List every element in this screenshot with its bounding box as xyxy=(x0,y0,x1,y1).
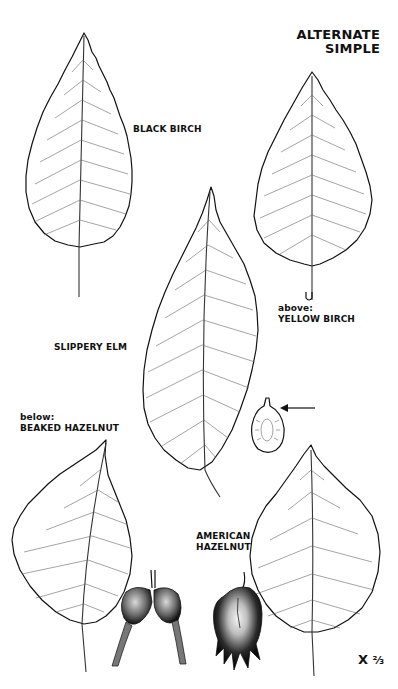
label-slippery-elm: SLIPPERY ELM xyxy=(54,342,127,353)
label-black-birch: BLACK BIRCH xyxy=(133,124,202,135)
arrow-pointer-icon xyxy=(280,404,315,412)
label-beaked-hazelnut-name: BEAKED HAZELNUT xyxy=(20,423,119,433)
heading-line-2: SIMPLE xyxy=(297,42,380,56)
botanical-plate: .outline { fill: none; stroke: #111; str… xyxy=(0,0,398,689)
label-beaked-hazelnut: below: BEAKED HAZELNUT xyxy=(20,412,119,434)
slippery-elm-leaf xyxy=(143,187,258,497)
label-american-hazelnut-line1: AMERICAN xyxy=(196,531,251,542)
heading-line-1: ALTERNATE xyxy=(297,28,380,42)
beaked-hazelnut-fruit xyxy=(112,570,186,666)
scale-indicator: X ²⁄₃ xyxy=(358,652,384,667)
label-yellow-birch: above: YELLOW BIRCH xyxy=(278,303,355,325)
label-beaked-hazelnut-prefix: below: xyxy=(20,412,119,423)
yellow-birch-leaf xyxy=(254,72,372,300)
american-hazelnut-fruit xyxy=(214,572,263,670)
scale-prefix: X xyxy=(358,652,368,667)
label-american-hazelnut: AMERICAN HAZELNUT xyxy=(196,531,251,553)
beaked-hazelnut-leaf xyxy=(12,440,132,672)
label-yellow-birch-name: YELLOW BIRCH xyxy=(278,314,355,324)
label-yellow-birch-prefix: above: xyxy=(278,303,355,314)
black-birch-leaf xyxy=(26,33,132,297)
label-american-hazelnut-line2: HAZELNUT xyxy=(196,542,251,553)
elm-samara xyxy=(252,398,285,452)
scale-value: ²⁄₃ xyxy=(373,654,384,667)
american-hazelnut-leaf xyxy=(250,445,380,676)
page-heading: ALTERNATE SIMPLE xyxy=(297,28,380,56)
